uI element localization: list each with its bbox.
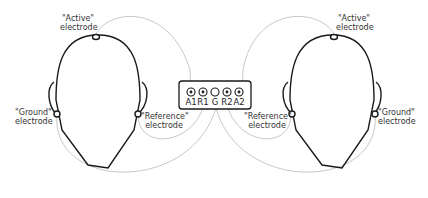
left-ground-label-line1: "Ground" [15, 108, 51, 117]
pin-g-jack [211, 88, 219, 96]
right-ground-label: "Ground" electrode [378, 108, 414, 126]
left-active-label-line2: electrode [60, 23, 96, 32]
right-ground-label-line1: "Ground" [378, 108, 414, 117]
right-ground-label-line2: electrode [378, 117, 414, 126]
pin-r2-dot [226, 91, 229, 94]
pin-a1-dot [190, 91, 193, 94]
left-active-label: "Active" electrode [60, 14, 96, 32]
left-reference-label-line1: "Reference" [141, 112, 187, 121]
left-head-outline [56, 35, 140, 168]
left-ground-electrode [54, 111, 60, 117]
left-ground-label-line2: electrode [15, 117, 51, 126]
eeg-diagram: A1 R1 G R2 A2 "Active" electrode "Ground… [0, 0, 428, 198]
pin-label-g: G [209, 97, 221, 107]
left-reference-label-line2: electrode [141, 121, 187, 130]
right-reference-label-line2: electrode [244, 121, 290, 130]
pin-label-a1: A1 [185, 97, 197, 107]
pin-a2-dot [238, 91, 241, 94]
pin-r1-dot [202, 91, 205, 94]
left-ground-label: "Ground" electrode [15, 108, 51, 126]
right-reference-label: "Reference" electrode [244, 112, 290, 130]
right-active-electrode [331, 35, 338, 40]
pin-label-r2: R2 [221, 97, 233, 107]
right-active-label-line1: "Active" [336, 14, 372, 23]
left-active-electrode [93, 35, 100, 40]
left-active-label-line1: "Active" [60, 14, 96, 23]
wire-right-ground [216, 108, 375, 172]
pin-label-a2: A2 [233, 97, 245, 107]
left-head [49, 35, 147, 169]
right-active-label: "Active" electrode [336, 14, 372, 32]
right-head-outline [290, 35, 374, 168]
right-reference-label-line1: "Reference" [244, 112, 290, 121]
left-reference-label: "Reference" electrode [141, 112, 187, 130]
right-active-label-line2: electrode [336, 23, 372, 32]
pin-label-r1: R1 [197, 97, 209, 107]
